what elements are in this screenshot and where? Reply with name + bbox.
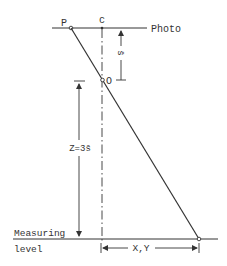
xy-label: X,Y xyxy=(132,243,149,254)
s-bar-label: s̄ xyxy=(115,50,125,55)
level-label: level xyxy=(14,244,43,255)
ray-line xyxy=(71,28,199,239)
point-c-label: c xyxy=(99,15,105,26)
point-c-marker xyxy=(101,27,104,30)
ground-point-marker xyxy=(197,237,201,241)
point-p-label: P xyxy=(61,18,67,29)
point-o-marker xyxy=(101,78,105,82)
photo-label: Photo xyxy=(151,24,181,35)
z-label: Z=3s̄ xyxy=(69,144,91,154)
measuring-label: Measuring xyxy=(14,228,65,239)
point-o-label: O xyxy=(106,76,112,87)
photogrammetry-diagram: Photo P c O s̄ Z=3s̄ Measuring level X,Y xyxy=(0,0,227,266)
